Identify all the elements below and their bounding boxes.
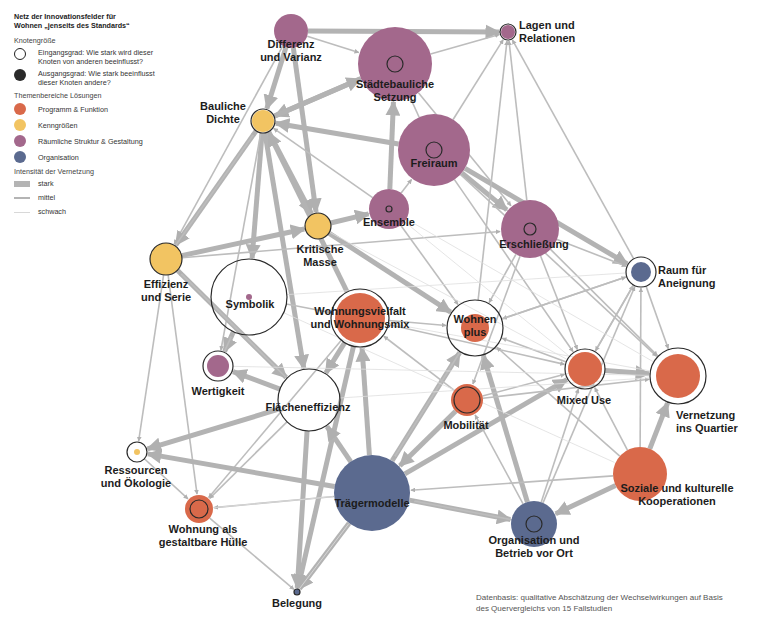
node-label-effizienz: Effizienzund Serie: [141, 278, 191, 304]
node-label-belegung: Belegung: [272, 597, 322, 610]
filled-circle-icon: [14, 69, 26, 81]
node-fill: [334, 455, 410, 531]
themes-heading: Themenbereiche Lösungen: [14, 91, 204, 100]
node-label-freiraum: Freiraum: [410, 157, 457, 170]
edge: [411, 476, 613, 490]
node-label-wertigkeit: Wertigkeit: [192, 385, 245, 398]
color-swatch-icon: [14, 151, 26, 163]
node-label-huelle: Wohnung alsgestaltbare Hülle: [159, 523, 248, 549]
edge: [556, 486, 616, 514]
edge: [362, 348, 369, 455]
node-fill: [501, 25, 515, 39]
edge: [605, 371, 649, 374]
legend-theme-item: Kenngrößen: [14, 119, 204, 131]
legend-out-degree: Ausgangsgrad: Wie stark beeinflusst dies…: [14, 69, 204, 87]
node-belegung[interactable]: [294, 589, 300, 595]
node-fill: [398, 114, 470, 186]
node-label-vielfalt: Wohnungsvielfaltund Wohnungsmix: [311, 305, 410, 331]
legend-theme-item: Programm & Funktion: [14, 103, 204, 115]
edge: [274, 79, 360, 116]
line-weight-icon: [14, 181, 30, 187]
node-label-dichte: BaulicheDichte: [200, 100, 246, 126]
node-effizienz[interactable]: [150, 243, 182, 275]
node-label-traeger: Trägermodelle: [334, 497, 409, 510]
node-dichte[interactable]: [251, 109, 275, 133]
node-label-raum: Raum fürAneignung: [658, 264, 715, 290]
edge: [595, 285, 633, 351]
edge: [148, 409, 280, 449]
node-size-heading: Knotengröße: [14, 36, 204, 45]
node-ressourcen[interactable]: [127, 442, 147, 462]
node-fill: [631, 262, 651, 282]
edge: [646, 286, 668, 349]
node-label-symbolik: Symbolik: [226, 298, 275, 311]
node-fill: [185, 495, 213, 523]
node-label-wohnenplus: Wohnenplus: [453, 313, 496, 339]
legend-intensity-item: mittel: [14, 193, 204, 202]
node-label-kritisch: KritischeMasse: [296, 243, 343, 269]
edge: [640, 288, 641, 447]
node-traeger[interactable]: [334, 455, 410, 531]
node-label-differenz: Differenzund Varianz: [260, 38, 322, 64]
node-fill: [568, 352, 602, 386]
edge: [410, 500, 511, 519]
node-mixed[interactable]: [565, 349, 605, 389]
edge: [210, 422, 287, 499]
node-vernetzung[interactable]: [650, 348, 706, 404]
edge: [390, 102, 394, 189]
legend: Netz der Innovationsfelder für Wohnen „j…: [14, 12, 204, 221]
node-label-flaeche: Flächeneffizienz: [266, 401, 351, 414]
edge: [401, 179, 411, 193]
node-symbolik[interactable]: [211, 259, 287, 335]
legend-theme-item: Räumliche Struktur & Gestaltung: [14, 135, 204, 147]
node-label-ensemble: Ensemble: [363, 216, 415, 229]
node-label-lagen: Lagen undRelationen: [519, 19, 575, 45]
node-fill: [134, 449, 140, 455]
intensity-list: starkmittelschwach: [14, 179, 204, 216]
node-fill: [656, 354, 700, 398]
node-lagen[interactable]: [500, 24, 516, 40]
node-label-mobilitaet: Mobilität: [443, 419, 488, 432]
edge: [384, 336, 454, 390]
node-label-vernetzung: Vernetzungins Quartier: [676, 409, 738, 435]
edge: [650, 403, 668, 449]
node-label-staedtebau: StädtebaulicheSetzung: [356, 78, 434, 104]
edge: [389, 323, 650, 371]
hollow-circle-icon: [14, 48, 26, 60]
footnote: Datenbasis: qualitative Abschätzung der …: [476, 592, 723, 614]
line-weight-icon: [14, 212, 30, 213]
legend-in-degree: Eingangsgrad: Wie stark wird dieser Knot…: [14, 48, 204, 66]
edge: [453, 40, 503, 120]
node-raum[interactable]: [626, 257, 656, 287]
node-label-soziale: Soziale und kulturelleKooperationen: [620, 482, 733, 508]
edge: [509, 41, 527, 200]
edge: [483, 356, 527, 502]
node-label-mixed: Mixed Use: [557, 394, 611, 407]
node-label-ressourcen: Ressourcenund Ökologie: [101, 464, 171, 490]
node-label-erschliessung: Erschließung: [499, 238, 569, 251]
intensity-heading: Intensität der Vernetzung: [14, 167, 204, 176]
node-fill: [207, 355, 229, 377]
legend-intensity-item: schwach: [14, 207, 204, 216]
node-fill: [252, 110, 274, 132]
color-swatch-icon: [14, 103, 26, 115]
node-kritisch[interactable]: [305, 213, 331, 239]
legend-intensity-item: stark: [14, 179, 204, 188]
color-swatch-icon: [14, 135, 26, 147]
legend-theme-item: Organisation: [14, 151, 204, 163]
node-wertigkeit[interactable]: [203, 351, 233, 381]
themes-list: Programm & FunktionKenngrößenRäumliche S…: [14, 103, 204, 163]
edge: [224, 333, 233, 353]
edge: [276, 123, 399, 144]
node-freiraum[interactable]: [398, 114, 470, 186]
node-label-organisation: Organisation undBetrieb vor Ort: [488, 534, 579, 560]
line-weight-icon: [14, 197, 30, 199]
legend-title: Netz der Innovationsfelder für Wohnen „j…: [14, 12, 204, 30]
node-fill: [451, 384, 483, 416]
node-huelle[interactable]: [185, 495, 213, 523]
edge: [431, 34, 500, 53]
node-mobilitaet[interactable]: [451, 384, 483, 416]
color-swatch-icon: [14, 119, 26, 131]
